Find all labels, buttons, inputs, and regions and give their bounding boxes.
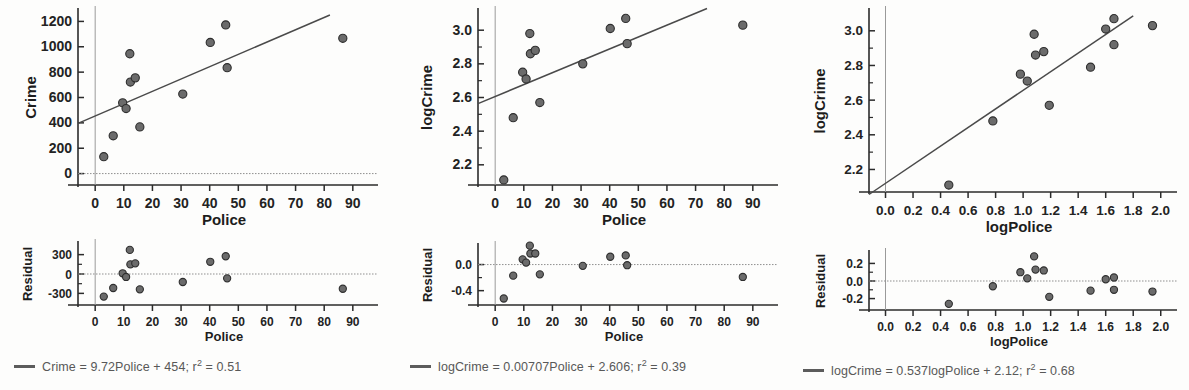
- p3-resid-data-point: [1046, 293, 1053, 300]
- p1-resid-x-tick-label: 0: [92, 315, 99, 329]
- p3-resid-data-point: [1032, 266, 1039, 273]
- p3-resid-data-point: [1017, 269, 1024, 276]
- legend-line-swatch-3: [803, 369, 824, 372]
- p1-scatter-y-tick-label: 400: [49, 114, 73, 130]
- p1-resid-data-point: [136, 286, 143, 293]
- panel-crime-vs-police: 0200400600800100012000102030405060708090…: [0, 0, 396, 390]
- p3-scatter-y-tick-label: 2.4: [844, 127, 863, 142]
- figure-root: 0200400600800100012000102030405060708090…: [0, 0, 1189, 390]
- p1-scatter-x-tick-label: 50: [231, 195, 247, 211]
- p1-scatter-y-tick-label: 1000: [41, 38, 72, 54]
- p1-resid-data-point: [126, 246, 133, 253]
- p2-resid-data-point: [532, 250, 539, 257]
- p1-resid-y-tick-label: 0: [65, 268, 72, 282]
- legend-tail-3: = 0.68: [1036, 364, 1075, 378]
- p2-scatter-data-point: [531, 46, 539, 54]
- p3-scatter-x-tick-label: 1.8: [1124, 203, 1143, 218]
- p1-resid-x-tick-label: 30: [174, 315, 188, 329]
- p3-scatter-x-tick-label: 0.0: [876, 203, 895, 218]
- p2-resid-data-point: [739, 273, 746, 280]
- p3-scatter-data-point: [1031, 51, 1039, 59]
- legend-label-2: logCrime = 0.00707Police + 2.606; r2 = 0…: [438, 358, 686, 374]
- p3-scatter-data-point: [1110, 15, 1118, 23]
- p3-resid-x-tick-label: 1.0: [1015, 320, 1032, 334]
- p2-scatter-y-tick-label: 2.6: [453, 89, 473, 105]
- p1-scatter-data-point: [126, 50, 134, 58]
- p2-scatter-x-tick-label: 90: [745, 195, 761, 211]
- p3-resid-y-axis-title: Residual: [813, 254, 828, 308]
- legend-3: logCrime = 0.537logPolice + 2.12; r2 = 0…: [803, 362, 1075, 378]
- p3-scatter-y-tick-label: 2.8: [844, 58, 863, 73]
- p2-resid-data-point: [622, 252, 629, 259]
- legend-tail-2: = 0.39: [647, 360, 686, 374]
- p2-resid-data-point: [510, 272, 517, 279]
- p2-resid-x-tick-label: 60: [660, 315, 674, 329]
- legend-line-swatch-2: [410, 365, 431, 368]
- p2-resid-x-tick-label: 90: [746, 315, 760, 329]
- p1-resid-y-axis-title: Residual: [20, 247, 35, 301]
- p3-resid-data-point: [989, 283, 996, 290]
- p1-scatter-data-point: [223, 64, 231, 72]
- p2-scatter-data-point: [509, 114, 517, 122]
- p1-resid-data-point: [339, 285, 346, 292]
- p3-resid-y-tick-label: 0.2: [846, 257, 863, 271]
- p1-scatter-y-axis-title: Crime: [22, 76, 39, 119]
- p1-scatter-y-tick-label: 1200: [41, 13, 72, 29]
- p3-scatter-data-point: [1040, 48, 1048, 56]
- p2-scatter-regression-line: [478, 8, 707, 103]
- p3-resid-x-tick-label: 1.6: [1097, 320, 1114, 334]
- p2-scatter-data-point: [522, 75, 530, 83]
- p3-resid-data-point: [945, 300, 952, 307]
- p1-scatter-x-tick-label: 90: [345, 195, 361, 211]
- p1-scatter-data-point: [100, 153, 108, 161]
- p1-scatter-regression-line: [78, 15, 330, 123]
- p1-scatter-x-tick-label: 30: [173, 195, 189, 211]
- p1-resid-x-tick-label: 70: [289, 315, 303, 329]
- p1-resid-x-tick-label: 50: [232, 315, 246, 329]
- p1-scatter-data-point: [122, 104, 130, 112]
- p1-scatter-data-point: [136, 123, 144, 131]
- p3-scatter-data-point: [1045, 101, 1053, 109]
- p2-resid-data-point: [579, 262, 586, 269]
- p2-scatter-data-point: [622, 14, 630, 22]
- p2-resid-data-point: [624, 262, 631, 269]
- p3-resid-data-point: [1110, 286, 1117, 293]
- p2-resid-x-tick-label: 40: [603, 315, 617, 329]
- p2-scatter-y-tick-label: 2.2: [453, 156, 473, 172]
- p2-resid-data-point: [500, 295, 507, 302]
- p3-scatter-data-point: [1086, 63, 1094, 71]
- p1-resid-x-tick-label: 60: [260, 315, 274, 329]
- p1-resid-x-tick-label: 20: [146, 315, 160, 329]
- p3-scatter-y-tick-label: 2.2: [844, 162, 863, 177]
- p2-scatter-data-point: [623, 40, 631, 48]
- p3-scatter-x-axis-title: logPolice: [986, 218, 1053, 235]
- p1-scatter-data-point: [339, 34, 347, 42]
- p2-scatter-x-tick-label: 80: [716, 195, 732, 211]
- p3-scatter-x-tick-label: 0.6: [959, 203, 978, 218]
- p3-resid-data-point: [1031, 253, 1038, 260]
- p2-resid-x-tick-label: 10: [517, 315, 531, 329]
- p3-scatter-data-point: [1030, 30, 1038, 38]
- p3-resid-data-point: [1110, 274, 1117, 281]
- p2-scatter-x-axis-title: Police: [602, 211, 646, 228]
- p1-scatter-data-point: [179, 90, 187, 98]
- p1-resid-data-point: [100, 293, 107, 300]
- p3-resid-data-point: [1087, 287, 1094, 294]
- p3-scatter-x-tick-label: 1.6: [1096, 203, 1115, 218]
- p1-scatter-x-axis-title: Police: [202, 211, 246, 228]
- p1-resid-y-tick-label: -300: [48, 287, 72, 301]
- p3-resid: 0.20.0-0.20.00.20.40.60.81.01.21.41.61.8…: [813, 248, 1177, 349]
- p2-resid-data-point: [526, 242, 533, 249]
- p1-resid-data-point: [110, 284, 117, 291]
- p3-resid-x-tick-label: 1.8: [1125, 320, 1142, 334]
- p1-scatter-x-tick-label: 20: [145, 195, 161, 211]
- p2-scatter-x-tick-label: 30: [573, 195, 589, 211]
- p3-scatter-x-tick-label: 1.0: [1014, 203, 1033, 218]
- p2-resid-x-tick-label: 80: [718, 315, 732, 329]
- panel-logcrime-vs-police: 2.22.42.62.83.00102030405060708090logCri…: [396, 0, 792, 390]
- p3-scatter-x-tick-label: 2.0: [1151, 203, 1170, 218]
- p2-resid-x-tick-label: 70: [689, 315, 703, 329]
- p1-scatter-x-tick-label: 60: [259, 195, 275, 211]
- p3-resid-x-tick-label: 0.8: [987, 320, 1004, 334]
- legend-label-1: Crime = 9.72Police + 454; r2 = 0.51: [42, 358, 241, 374]
